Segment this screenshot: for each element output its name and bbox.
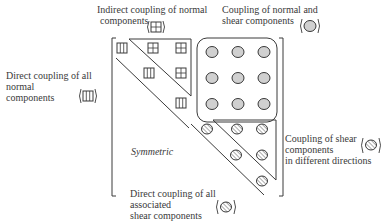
direct-shear-circle-icon <box>202 124 213 134</box>
normal-shear-circle-icon <box>206 73 218 84</box>
indirect-normal-square-icon <box>148 43 158 53</box>
legend-indirect-normal-icon <box>148 21 165 33</box>
shear-diagonal-line <box>191 124 264 195</box>
left-bracket <box>112 38 116 196</box>
shear-directions-circle-icon <box>232 124 243 134</box>
normal-shear-circle-icon <box>232 47 244 58</box>
coupling-matrix-diagram <box>0 0 389 224</box>
legend-direct-shear-icon <box>217 200 236 214</box>
direct-normal-square-icon <box>117 43 127 53</box>
normal-shear-circle-icon <box>258 99 270 110</box>
shear-directions-circle-icon <box>257 124 268 134</box>
legend-normal-shear-icon <box>301 19 320 33</box>
shear-directions-circle-icon <box>257 150 268 160</box>
indirect-normal-square-icon <box>176 68 186 78</box>
direct-shear-circle-icon <box>231 150 242 160</box>
direct-normal-square-icon <box>144 68 154 78</box>
normal-shear-circle-icon <box>258 73 270 84</box>
direct-shear-circle-icon <box>257 176 268 186</box>
normal-shear-circle-icon <box>232 99 244 110</box>
right-bracket <box>279 38 283 196</box>
normal-shear-circle-icon <box>232 73 244 84</box>
indirect-normal-square-icon <box>176 43 186 53</box>
normal-shear-circle-icon <box>206 99 218 110</box>
legend-direct-normal-icon <box>80 89 97 103</box>
normal-shear-circle-icon <box>258 47 270 58</box>
normal-shear-circle-icon <box>206 47 218 58</box>
direct-normal-square-icon <box>176 98 186 108</box>
legend-shear-directions-icon <box>362 138 381 153</box>
